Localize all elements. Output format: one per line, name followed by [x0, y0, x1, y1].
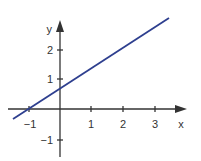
data-line: [13, 18, 169, 119]
y-tick-label: 1: [47, 73, 53, 85]
y-axis-arrow-icon: [56, 20, 64, 32]
x-tick-label: 1: [88, 118, 94, 130]
y-tick-label: 2: [47, 44, 53, 56]
x-tick-label: −1: [24, 118, 37, 130]
y-tick-label: −1: [40, 134, 53, 146]
x-axis-label: x: [178, 118, 184, 130]
x-axis-arrow-icon: [175, 105, 187, 113]
x-tick-label: 2: [120, 118, 126, 130]
line-graph: −1 1 2 3 x 2 1 −1 y: [0, 0, 201, 161]
y-axis-label: y: [47, 23, 53, 35]
x-tick-label: 3: [152, 118, 158, 130]
